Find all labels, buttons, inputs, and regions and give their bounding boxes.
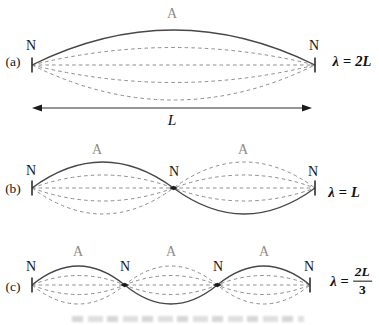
node-label: N [169,165,179,179]
wave-snapshot [32,48,315,66]
fraction-denominator: 3 [359,282,366,298]
wavelength-fraction: 2L 3 [353,265,372,298]
wavelength-label-b: λ = L [328,185,360,200]
wave-snapshot [32,65,315,83]
panel-letter: (a) [6,55,21,69]
node-label: N [120,260,130,274]
panel-letter: (c) [6,280,21,294]
antinode-label: A [167,7,177,21]
panel-c-curves [32,266,310,304]
equals-sign: = [339,185,347,200]
node-label: N [26,164,36,178]
wavelength-label-c: λ = 2L 3 [330,265,372,298]
lambda-symbol: λ [333,54,339,69]
antinode-label: A [73,245,83,259]
panel-a-curves [32,30,315,100]
antinode-label: A [166,245,176,259]
wavelength-value: 2L [355,54,371,69]
wavelength-value: L [351,185,360,200]
antinode-label: A [259,245,269,259]
standing-waves-figure: NNA(a)NNNAA(b)NNNNAAA(c)L λ = 2L λ = L λ… [0,0,379,325]
node-label: N [26,260,36,274]
node-label: N [309,39,319,53]
arrowhead-right-icon [302,105,312,112]
lambda-symbol: λ [330,274,336,289]
node-label: N [213,260,223,274]
antinode-label: A [92,143,102,157]
cropped-caption-remnant [72,316,304,322]
node-label: N [308,165,318,179]
equals-sign: = [343,54,351,69]
panel-letter: (b) [5,182,21,196]
fraction-numerator: 2L [353,265,372,282]
lambda-symbol: λ [328,185,334,200]
arrowhead-left-icon [32,105,42,112]
length-label: L [168,112,177,128]
wavelength-label-a: λ = 2L [333,54,372,69]
wave-curves-canvas [0,0,379,325]
node-label: N [304,260,314,274]
equals-sign: = [341,274,349,289]
antinode-label: A [238,143,248,157]
node-label: N [26,39,36,53]
